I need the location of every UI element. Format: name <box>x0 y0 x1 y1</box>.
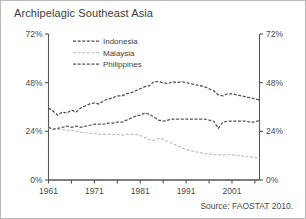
chart-legend: IndonesiaMalaysiaPhilippines <box>73 37 142 69</box>
left-axis-tick-label: 24% <box>25 126 42 136</box>
left-axis: 0%24%48%72% <box>25 29 48 185</box>
left-axis-tick-label: 72% <box>25 29 42 39</box>
left-axis-tick-label: 0% <box>30 175 43 185</box>
right-axis-tick-label: 24% <box>266 126 283 136</box>
right-axis-tick-label: 72% <box>266 29 283 39</box>
line-chart-plot: 0%24%48%72% 0%24%48%72% 1961197119811991… <box>1 1 306 219</box>
series-line-philippines <box>49 113 260 129</box>
x-axis-tick-label: 1971 <box>85 186 104 196</box>
chart-figure: Archipelagic Southeast Asia 0%24%48%72% … <box>0 0 306 219</box>
right-axis: 0%24%48%72% <box>260 29 284 185</box>
right-axis-tick-label: 0% <box>266 175 279 185</box>
series-line-malaysia <box>49 128 260 157</box>
x-axis: 19611971198119912001 <box>39 180 259 196</box>
x-axis-tick-label: 1981 <box>131 186 150 196</box>
series-lines <box>49 82 260 158</box>
series-line-indonesia <box>49 82 260 115</box>
legend-label-malaysia: Malaysia <box>103 49 135 58</box>
x-axis-tick-label: 2001 <box>223 186 242 196</box>
left-axis-tick-label: 48% <box>25 78 42 88</box>
x-axis-tick-label: 1991 <box>177 186 196 196</box>
legend-label-philippines: Philippines <box>103 60 142 69</box>
source-note: Source: FAOSTAT 2010. <box>200 201 293 211</box>
right-axis-tick-label: 48% <box>266 78 283 88</box>
legend-label-indonesia: Indonesia <box>103 37 138 46</box>
x-axis-tick-label: 1961 <box>39 186 58 196</box>
